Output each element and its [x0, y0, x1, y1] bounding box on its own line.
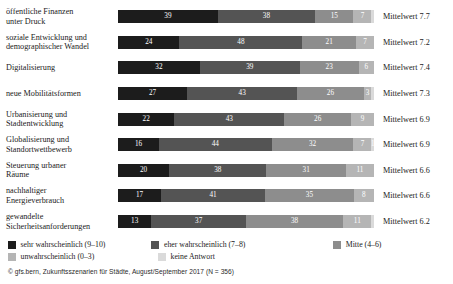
bar-segment-value: 17 — [136, 189, 143, 202]
legend-item: Mitte (4–6) — [333, 240, 448, 249]
bar-segment: 6 — [359, 61, 374, 74]
bar-segment: 27 — [118, 87, 187, 100]
legend-item: unwahrscheinlich (0–3) — [8, 252, 158, 261]
chart-row: nachhaltigerEnergieverbrauch1741358Mitte… — [0, 185, 453, 207]
legend-label: unwahrscheinlich (0–3) — [21, 252, 95, 261]
bar-segment: 9 — [351, 113, 374, 126]
bar-segment: 38 — [218, 10, 315, 23]
legend-item: sehr wahrscheinlich (9–10) — [8, 240, 151, 249]
bar-segment-value: 23 — [326, 61, 333, 74]
bar-segment: 43 — [174, 113, 284, 126]
chart-row: Globalisierung undStandortwettbewerb1644… — [0, 134, 453, 156]
bar-segment: 38 — [246, 215, 343, 228]
legend-label: sehr wahrscheinlich (9–10) — [21, 240, 106, 249]
bar-segment-value: 3 — [366, 87, 370, 100]
category-label: soziale Entwicklung unddemographischer W… — [0, 33, 118, 52]
chart-row: soziale Entwicklung unddemographischer W… — [0, 32, 453, 54]
chart-row: Urbanisierung undStadtentwicklung2243269… — [0, 108, 453, 130]
bar-segment-value: 8 — [362, 189, 366, 202]
category-label-line: Sicherheitsanforderungen — [6, 222, 118, 232]
bar-segment-value: 32 — [155, 61, 162, 74]
chart-row: öffentliche Finanzenunter Druck3938157Mi… — [0, 6, 453, 28]
bar-segment: 11 — [343, 215, 371, 228]
bar-segment: 23 — [300, 61, 359, 74]
bar-segment-value: 39 — [246, 61, 253, 74]
legend-swatch-icon — [333, 241, 341, 249]
bar-segment-value: 6 — [364, 61, 368, 74]
bar-segment-value: 9 — [361, 113, 365, 126]
legend-swatch-icon — [8, 241, 16, 249]
mean-annotation: Mittelwert 7.7 — [374, 12, 453, 21]
category-label: Urbanisierung undStadtentwicklung — [0, 110, 118, 129]
chart-row: neue Mobilitätsformen2743263Mittelwert 7… — [0, 83, 453, 105]
chart-row: gewandelteSicherheitsanforderungen133738… — [0, 211, 453, 233]
stacked-bar: 1741358 — [118, 189, 374, 202]
legend-item: keine Antwort — [158, 252, 348, 261]
bar-segment: 17 — [118, 189, 161, 202]
category-label-line: Steuerung urbaner — [6, 161, 118, 171]
stacked-bar: 20383111 — [118, 164, 374, 177]
bar-segment: 41 — [161, 189, 265, 202]
legend-row-2: unwahrscheinlich (0–3)keine Antwort — [8, 252, 448, 261]
legend-row-1: sehr wahrscheinlich (9–10)eher wahrschei… — [8, 240, 448, 249]
mean-annotation: Mittelwert 7.3 — [374, 89, 453, 98]
bar-segment-value: 11 — [356, 164, 363, 177]
category-label: nachhaltigerEnergieverbrauch — [0, 186, 118, 205]
bar-segment-value: 7 — [361, 10, 365, 23]
chart-rows: öffentliche Finanzenunter Druck3938157Mi… — [0, 6, 453, 236]
category-label-line: gewandelte — [6, 212, 118, 222]
category-label-line: unter Druck — [6, 17, 118, 27]
bar-segment-value: 38 — [291, 215, 298, 228]
bar-segment: 31 — [266, 164, 345, 177]
bar-segment: 7 — [356, 36, 374, 49]
stacked-bar: 3938157 — [118, 10, 374, 23]
mean-annotation: Mittelwert 6.6 — [374, 191, 453, 200]
bar-segment: 39 — [118, 10, 218, 23]
bar-segment: 44 — [159, 138, 272, 151]
stacked-bar: 3239236 — [118, 61, 374, 74]
stacked-bar: 2743263 — [118, 87, 374, 100]
legend-item: eher wahrscheinlich (7–8) — [151, 240, 333, 249]
mean-annotation: Mittelwert 6.9 — [374, 140, 453, 149]
stacked-bar: 2243269 — [118, 113, 374, 126]
bar-segment: 38 — [169, 164, 266, 177]
bar-segment: 26 — [284, 113, 351, 126]
bar-segment: 7 — [353, 10, 371, 23]
bar-segment: 26 — [297, 87, 364, 100]
bar-segment-value: 38 — [214, 164, 221, 177]
category-label-line: Digitalisierung — [6, 63, 118, 73]
legend-swatch-icon — [151, 241, 159, 249]
category-label: Steuerung urbanerRäume — [0, 161, 118, 180]
bar-segment: 24 — [118, 36, 179, 49]
bar-segment-value: 13 — [131, 215, 138, 228]
chart-row: Digitalisierung3239236Mittelwert 7.4 — [0, 57, 453, 79]
legend-swatch-icon — [158, 253, 166, 261]
bar-segment-value: 44 — [212, 138, 219, 151]
bar-segment-value: 22 — [143, 113, 150, 126]
bar-segment-value: 11 — [354, 215, 361, 228]
bar-segment: 13 — [118, 215, 151, 228]
mean-annotation: Mittelwert 6.2 — [374, 217, 453, 226]
bar-segment: 32 — [118, 61, 200, 74]
bar-segment: 8 — [354, 189, 374, 202]
bar-segment-value: 48 — [237, 36, 244, 49]
bar-segment-value: 35 — [306, 189, 313, 202]
category-label-line: soziale Entwicklung und — [6, 33, 118, 43]
bar-segment: 16 — [118, 138, 159, 151]
legend-swatch-icon — [8, 253, 16, 261]
legend-label: keine Antwort — [171, 252, 215, 261]
category-label: öffentliche Finanzenunter Druck — [0, 7, 118, 26]
bar-segment-value: 21 — [326, 36, 333, 49]
stacked-bar: 13373811 — [118, 215, 374, 228]
bar-segment: 32 — [272, 138, 354, 151]
category-label: Globalisierung undStandortwettbewerb — [0, 135, 118, 154]
category-label: neue Mobilitätsformen — [0, 89, 118, 99]
bar-segment-value: 24 — [145, 36, 152, 49]
bar-segment-value: 27 — [149, 87, 156, 100]
mean-annotation: Mittelwert 6.6 — [374, 166, 453, 175]
bar-segment: 37 — [151, 215, 246, 228]
category-label-line: nachhaltiger — [6, 186, 118, 196]
bar-segment: 20 — [118, 164, 169, 177]
bar-segment-value: 43 — [226, 113, 233, 126]
stacked-bar: 2448217 — [118, 36, 374, 49]
